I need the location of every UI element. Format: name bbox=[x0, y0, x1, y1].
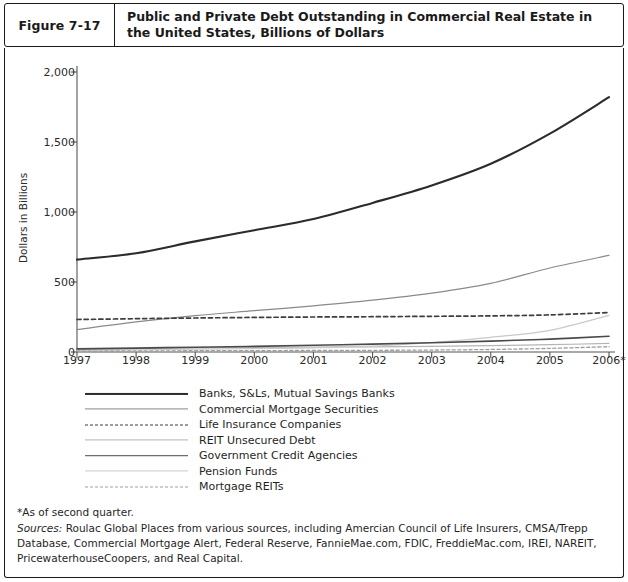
figure-number: Figure 7-17 bbox=[18, 18, 100, 33]
legend-swatch-line bbox=[85, 486, 188, 487]
legend-item: REIT Unsecured Debt bbox=[85, 433, 565, 449]
x-tick-label: 2006* bbox=[592, 354, 626, 367]
y-tick-label: 500 bbox=[31, 276, 75, 289]
legend-swatch-line bbox=[85, 455, 188, 457]
sources-text: Roulac Global Places from various source… bbox=[17, 522, 597, 564]
x-tick-label: 2003 bbox=[418, 354, 446, 367]
x-tick-label: 2002 bbox=[359, 354, 387, 367]
footnote-asterisk: *As of second quarter. bbox=[17, 506, 617, 518]
y-axis-ticks: 05001,0001,5002,000 bbox=[27, 48, 75, 388]
series-line bbox=[77, 313, 609, 320]
figure-notes: *As of second quarter. Sources: Roulac G… bbox=[17, 506, 617, 566]
legend-line-swatch bbox=[85, 434, 188, 446]
y-tick-label: 1,000 bbox=[31, 206, 75, 219]
legend-swatch-line bbox=[85, 424, 188, 425]
legend-item: Pension Funds bbox=[85, 464, 565, 480]
page-title: Public and Private Debt Outstanding in C… bbox=[127, 9, 613, 42]
legend-line-swatch bbox=[85, 403, 188, 415]
figure-title-cell: Public and Private Debt Outstanding in C… bbox=[115, 4, 623, 46]
legend-line-swatch bbox=[85, 465, 188, 477]
sources-note: Sources: Roulac Global Places from vario… bbox=[17, 521, 617, 566]
legend-label: Government Credit Agencies bbox=[199, 449, 358, 462]
legend-line-swatch bbox=[85, 450, 188, 462]
legend-label: Banks, S&Ls, Mutual Savings Banks bbox=[199, 387, 395, 400]
chart-legend: Banks, S&Ls, Mutual Savings BanksCommerc… bbox=[85, 386, 565, 495]
legend-label: Commercial Mortgage Securities bbox=[199, 403, 379, 416]
legend-swatch-line bbox=[85, 440, 188, 441]
chart-area: Dollars in Billions 05001,0001,5002,000 … bbox=[5, 48, 623, 388]
x-tick-label: 2001 bbox=[299, 354, 327, 367]
x-axis-ticks: 1997199819992000200120022003200420052006… bbox=[5, 354, 623, 384]
x-tick-label: 2005 bbox=[536, 354, 564, 367]
legend-line-swatch bbox=[85, 419, 188, 431]
chart-plot bbox=[5, 48, 623, 388]
y-tick-label: 1,500 bbox=[31, 136, 75, 149]
x-tick-label: 1998 bbox=[122, 354, 150, 367]
legend-label: Pension Funds bbox=[199, 465, 277, 478]
legend-line-swatch bbox=[85, 481, 188, 493]
x-tick-label: 2000 bbox=[240, 354, 268, 367]
figure-body: Dollars in Billions 05001,0001,5002,000 … bbox=[4, 48, 624, 578]
legend-swatch-line bbox=[85, 409, 188, 410]
legend-item: Mortgage REITs bbox=[85, 479, 565, 495]
sources-label: Sources: bbox=[17, 522, 62, 534]
figure-header: Figure 7-17 Public and Private Debt Outs… bbox=[4, 3, 624, 47]
legend-label: Life Insurance Companies bbox=[199, 418, 341, 431]
legend-label: Mortgage REITs bbox=[199, 480, 284, 493]
figure-page: Figure 7-17 Public and Private Debt Outs… bbox=[0, 0, 628, 582]
x-tick-label: 1997 bbox=[63, 354, 91, 367]
legend-swatch-line bbox=[85, 471, 188, 472]
x-tick-label: 2004 bbox=[477, 354, 505, 367]
legend-item: Banks, S&Ls, Mutual Savings Banks bbox=[85, 386, 565, 402]
legend-item: Life Insurance Companies bbox=[85, 417, 565, 433]
legend-item: Commercial Mortgage Securities bbox=[85, 402, 565, 418]
legend-swatch-line bbox=[85, 393, 188, 395]
legend-label: REIT Unsecured Debt bbox=[199, 434, 316, 447]
y-tick-label: 2,000 bbox=[31, 66, 75, 79]
legend-item: Government Credit Agencies bbox=[85, 448, 565, 464]
figure-number-cell: Figure 7-17 bbox=[5, 4, 115, 46]
series-line bbox=[77, 97, 609, 259]
x-tick-label: 1999 bbox=[181, 354, 209, 367]
legend-line-swatch bbox=[85, 388, 188, 400]
